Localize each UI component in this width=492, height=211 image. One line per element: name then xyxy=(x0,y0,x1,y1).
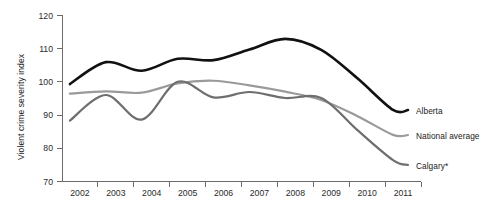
x-axis-ticks: 2002200320042005200620072008200920102011 xyxy=(70,182,421,199)
y-tick-label: 80 xyxy=(43,143,53,153)
y-tick-label: 70 xyxy=(43,177,53,187)
series-labels: Alberta National average Calgary* xyxy=(416,106,480,171)
series-lines xyxy=(70,39,408,165)
y-axis-tick-labels: 70 80 90 100 110 120 xyxy=(39,11,54,187)
x-tick-label: 2005 xyxy=(178,188,197,198)
y-axis-title: Violent crime severity index xyxy=(16,53,26,160)
series-line-national-average xyxy=(70,81,408,137)
y-tick-label: 110 xyxy=(39,44,53,54)
series-line-alberta xyxy=(70,39,408,112)
x-tick-label: 2002 xyxy=(70,188,89,198)
x-tick-label: 2008 xyxy=(286,188,305,198)
y-axis-ticks xyxy=(57,16,63,182)
chart-canvas: Violent crime severity index 70 80 90 10… xyxy=(0,0,492,211)
x-tick-label: 2011 xyxy=(394,188,413,198)
x-tick-label: 2009 xyxy=(322,188,341,198)
y-tick-label: 100 xyxy=(39,77,54,87)
x-tick-label: 2003 xyxy=(106,188,125,198)
series-label-calgary: Calgary* xyxy=(416,161,449,171)
x-tick-label: 2010 xyxy=(357,188,376,198)
x-tick-label: 2007 xyxy=(250,188,269,198)
series-label-national-average: National average xyxy=(416,131,480,141)
series-line-calgary xyxy=(70,81,408,165)
x-tick-label: 2006 xyxy=(214,188,233,198)
y-tick-label: 90 xyxy=(43,110,53,120)
series-label-alberta: Alberta xyxy=(416,106,443,116)
violent-crime-severity-index-chart: Violent crime severity index 70 80 90 10… xyxy=(0,0,492,211)
y-tick-label: 120 xyxy=(39,11,54,21)
x-tick-label: 2004 xyxy=(142,188,161,198)
